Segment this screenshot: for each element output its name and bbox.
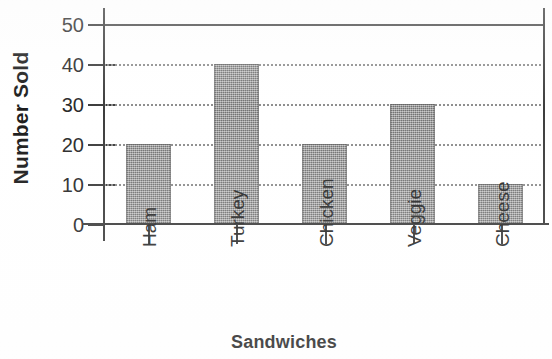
plot-right-border [543, 8, 545, 224]
x-category-text-cheese: Cheese [493, 157, 512, 247]
y-tick-label-50: 50 [44, 15, 84, 35]
y-axis-title-text: Number Sold [10, 52, 32, 185]
y-tick-mark-50 [88, 24, 104, 26]
y-tick-label-20: 20 [44, 135, 84, 155]
y-tick-mark-40 [88, 64, 104, 66]
y-tick-label-30: 30 [44, 95, 84, 115]
x-axis-title: Sandwiches [104, 332, 464, 353]
y-tick-mark-10 [88, 184, 104, 186]
x-category-text-chicken: Chicken [317, 157, 336, 247]
x-category-label-turkey: Turkey [228, 247, 318, 271]
gridline-30 [104, 104, 545, 106]
x-category-label-ham: Ham [140, 247, 230, 271]
x-category-text-ham: Ham [140, 157, 159, 247]
gridline-40 [104, 64, 545, 66]
y-tick-label-10: 10 [44, 175, 84, 195]
y-axis-line [103, 8, 105, 240]
bar-chart-figure: Number Sold 50 40 30 20 10 0 [0, 0, 552, 359]
x-category-label-chicken: Chicken [317, 247, 407, 271]
x-category-label-veggie: Veggie [405, 247, 495, 271]
y-axis-title: Number Sold [0, 18, 42, 218]
y-tick-mark-20 [88, 144, 104, 146]
x-category-text-turkey: Turkey [228, 157, 247, 247]
y-axis-tick-labels: 50 40 30 20 10 0 [40, 0, 84, 359]
x-category-text-veggie: Veggie [405, 157, 424, 247]
y-tick-label-0: 0 [44, 215, 84, 235]
y-tick-mark-30 [88, 104, 104, 106]
x-category-label-cheese: Cheese [493, 247, 552, 271]
gridline-50 [104, 24, 545, 26]
x-axis-origin-tick [103, 225, 105, 241]
y-tick-label-40: 40 [44, 55, 84, 75]
